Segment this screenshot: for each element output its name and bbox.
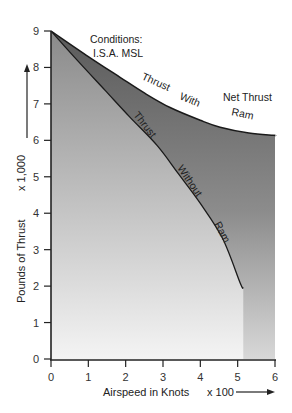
y-tick-label: 5: [33, 171, 39, 183]
y-tick-label: 2: [33, 280, 39, 292]
y-tick-label: 7: [33, 98, 39, 110]
y-axis-title: Pounds of Thrust: [15, 219, 27, 303]
x-tick-label: 3: [160, 371, 166, 383]
x-tick-label: 5: [235, 371, 241, 383]
y-tick-label: 1: [33, 317, 39, 329]
label-with-ram: Ram: [231, 105, 255, 121]
x-tick-label: 2: [123, 371, 129, 383]
conditions-value: I.S.A. MSL: [93, 47, 143, 59]
label-with-thrust: Thrust: [140, 70, 172, 93]
x-tick-label: 4: [197, 371, 203, 383]
label-with-with: With: [178, 90, 202, 109]
y-tick-label: 0: [33, 353, 39, 365]
y-axis-multiplier: x 1,000: [15, 155, 27, 191]
conditions-title: Conditions:: [90, 33, 143, 45]
thrust-chart: 0123456789 0123456 Thrust With Ram Thrus…: [0, 0, 292, 413]
y-axis-arrowhead-icon: [24, 64, 30, 72]
y-tick-label: 9: [33, 25, 39, 37]
x-tick-label: 0: [48, 371, 54, 383]
x-axis-multiplier: x 100: [207, 386, 234, 398]
x-axis-title: Airspeed in Knots: [103, 386, 190, 398]
x-tick-label: 6: [272, 371, 278, 383]
y-tick-label: 6: [33, 134, 39, 146]
y-tick-label: 4: [33, 207, 39, 219]
x-axis-arrowhead-icon: [267, 389, 275, 395]
net-thrust-label: Net Thrust: [223, 91, 272, 103]
x-tick-label: 1: [85, 371, 91, 383]
y-tick-label: 8: [33, 61, 39, 73]
y-tick-label: 3: [33, 244, 39, 256]
